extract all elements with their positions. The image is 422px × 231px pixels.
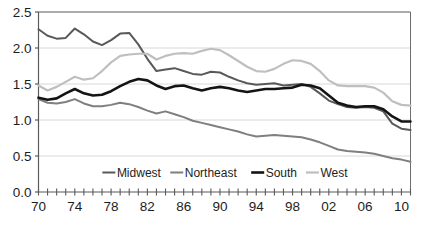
legend-label-west: West [320, 166, 348, 180]
y-tick-label: 1.0 [13, 113, 32, 128]
y-tick-label: 0.0 [13, 185, 32, 200]
x-tick-label: 94 [249, 199, 265, 214]
x-tick-label: 78 [104, 199, 119, 214]
series-line-west [39, 49, 411, 106]
y-tick-label: 2.0 [13, 41, 32, 56]
line-chart: 0.00.51.01.52.02.5 707478828690949802061… [0, 0, 422, 231]
figure-container: 0.00.51.01.52.02.5 707478828690949802061… [0, 0, 422, 231]
series-line-midwest [39, 29, 411, 131]
x-tick-label: 10 [394, 199, 409, 214]
y-tick-label: 1.5 [13, 77, 32, 92]
x-axis-tick-labels: 7074788286909498020610 [31, 199, 409, 214]
y-tick-label: 2.5 [13, 5, 32, 20]
x-tick-label: 70 [31, 199, 46, 214]
x-tick-label: 98 [285, 199, 300, 214]
x-tick-label: 90 [212, 199, 227, 214]
gridlines-group [39, 12, 411, 156]
x-tick-label: 06 [358, 199, 373, 214]
legend-label-northeast: Northeast [185, 166, 238, 180]
x-tick-label: 86 [176, 199, 191, 214]
plot-frame [39, 12, 411, 192]
legend-label-midwest: Midwest [117, 166, 162, 180]
y-tick-label: 0.5 [13, 149, 32, 164]
x-tick-label: 82 [140, 199, 155, 214]
chart-legend: MidwestNortheastSouthWest [102, 166, 348, 180]
x-tick-label: 74 [67, 199, 83, 214]
data-series-group [39, 29, 411, 162]
legend-label-south: South [266, 166, 297, 180]
y-axis-tick-labels: 0.00.51.01.52.02.5 [13, 5, 32, 200]
x-tick-label: 02 [321, 199, 336, 214]
